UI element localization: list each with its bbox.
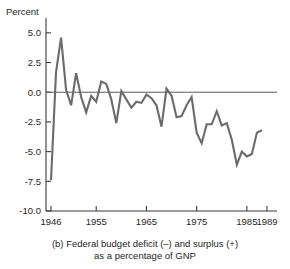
y-tick-label: -10.0 <box>19 205 41 216</box>
y-tick-label: -5.0 <box>25 146 41 157</box>
x-axis-ticks: 194619551965197519851989 <box>40 206 277 227</box>
figure-caption: (b) Federal budget deficit (–) and surpl… <box>0 238 290 262</box>
caption-line-2: as a percentage of GNP <box>0 250 290 262</box>
x-tick-label: 1989 <box>256 216 277 227</box>
x-tick-label: 1985 <box>236 216 257 227</box>
x-tick-label: 1946 <box>40 216 61 227</box>
y-tick-label: 0.0 <box>28 87 41 98</box>
x-tick-label: 1975 <box>186 216 207 227</box>
chart-plot-area: 5.02.50.0-2.5-5.0-7.5-10.0 1946195519651… <box>0 0 290 269</box>
x-tick-label: 1955 <box>86 216 107 227</box>
y-tick-label: -2.5 <box>25 116 41 127</box>
chart-figure: Percent 5.02.50.0-2.5-5.0-7.5-10.0 19461… <box>0 0 290 269</box>
x-tick-label: 1965 <box>136 216 157 227</box>
y-tick-label: -7.5 <box>25 176 41 187</box>
y-tick-label: 2.5 <box>28 57 41 68</box>
data-series-line <box>51 38 262 181</box>
y-tick-label: 5.0 <box>28 27 41 38</box>
caption-line-1: (b) Federal budget deficit (–) and surpl… <box>0 238 290 250</box>
